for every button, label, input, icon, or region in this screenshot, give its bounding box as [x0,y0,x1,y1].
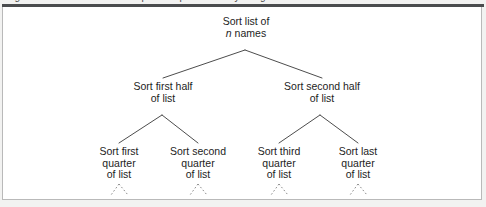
tree-node-sort-first-half: Sort first half of list [108,81,218,104]
tree-node-sort-third-quarter-line1: Sort third [240,146,318,158]
tree-node-root-line2: n names [196,28,296,40]
tree-node-sort-first-half-line1: Sort first half [108,81,218,93]
tree-node-sort-second-half-line2: of list [262,93,382,105]
tree-node-sort-second-quarter-line3: of list [156,169,240,181]
tree-node-sort-last-quarter-line1: Sort last [318,146,398,158]
tree-node-root-line2-suffix: names [232,27,266,39]
tree-node-sort-third-quarter: Sort third quarter of list [240,146,318,181]
tree-node-sort-first-half-line2: of list [108,93,218,105]
tree-node-sort-first-quarter-line3: of list [80,169,158,181]
tree-node-sort-second-half: Sort second half of list [262,81,382,104]
tree-node-sort-last-quarter: Sort last quarter of list [318,146,398,181]
tree-node-sort-first-quarter: Sort first quarter of list [80,146,158,181]
tree-node-sort-second-half-line1: Sort second half [262,81,382,93]
tree-node-root: Sort list of n names [196,16,296,39]
tree-node-sort-first-quarter-line1: Sort first [80,146,158,158]
figure-caption-text: Figure 1 The recursive decomposition per… [6,0,383,2]
tree-node-sort-second-quarter: Sort second quarter of list [156,146,240,181]
tree-node-sort-second-quarter-line1: Sort second [156,146,240,158]
tree-node-sort-third-quarter-line3: of list [240,169,318,181]
tree-node-sort-last-quarter-line3: of list [318,169,398,181]
